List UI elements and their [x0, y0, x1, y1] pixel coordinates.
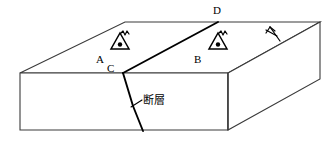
block-outline — [20, 22, 320, 130]
vertex-label-d: D — [213, 5, 221, 16]
station-a-center-dot-icon — [118, 42, 122, 46]
vertex-label-c: C — [107, 63, 114, 74]
station-label-b: B — [194, 54, 201, 65]
front-face — [20, 73, 228, 130]
station-label-a: A — [96, 54, 104, 65]
station-b-center-dot-icon — [216, 42, 220, 46]
fault-annotation-label: 断層 — [143, 95, 165, 106]
block-diagram-figure: D C A B 断層 — [0, 0, 336, 152]
block-diagram-canvas — [0, 0, 336, 152]
